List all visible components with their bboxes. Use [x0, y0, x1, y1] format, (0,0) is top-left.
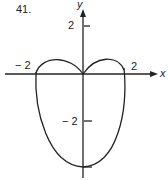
y-axis-arrow-icon [80, 9, 86, 17]
x-axis-arrow-icon [150, 71, 158, 77]
curve-lower-loop [36, 68, 125, 167]
curve-upper-lobes [36, 59, 124, 74]
graph [0, 0, 168, 180]
